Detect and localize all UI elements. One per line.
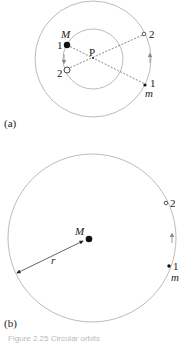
inner-orbit (63, 29, 123, 89)
label-m: m (171, 271, 179, 283)
label-2: 2 (170, 197, 176, 209)
label-M-2: 2 (57, 67, 63, 79)
mass-M (86, 236, 93, 243)
label-P: P (89, 46, 95, 58)
figure-a: P M 1 2 2 1 m (35, 1, 156, 117)
figure-caption: Figure 2.25 Circular orbits (8, 334, 100, 343)
outer-orbit (35, 1, 151, 117)
mass-m-position-2 (142, 32, 146, 36)
label-m-2: 2 (149, 28, 155, 40)
radius-arrow-icon (17, 241, 83, 273)
mass-M-position-1 (64, 42, 70, 48)
label-r: r (51, 254, 56, 266)
label-M-1: 1 (57, 39, 63, 51)
mass-m-position-1 (167, 264, 170, 267)
label-m: m (145, 87, 153, 99)
figure-b-label: (b) (4, 317, 17, 329)
figure-a-label: (a) (4, 117, 16, 129)
dashed-line-1 (67, 45, 145, 84)
label-M: M (74, 225, 85, 237)
mass-M-position-2 (64, 67, 70, 73)
mass-m-position-2 (164, 201, 168, 205)
figure-b: M r 2 1 m (8, 154, 179, 322)
dashed-line-2 (67, 34, 145, 69)
